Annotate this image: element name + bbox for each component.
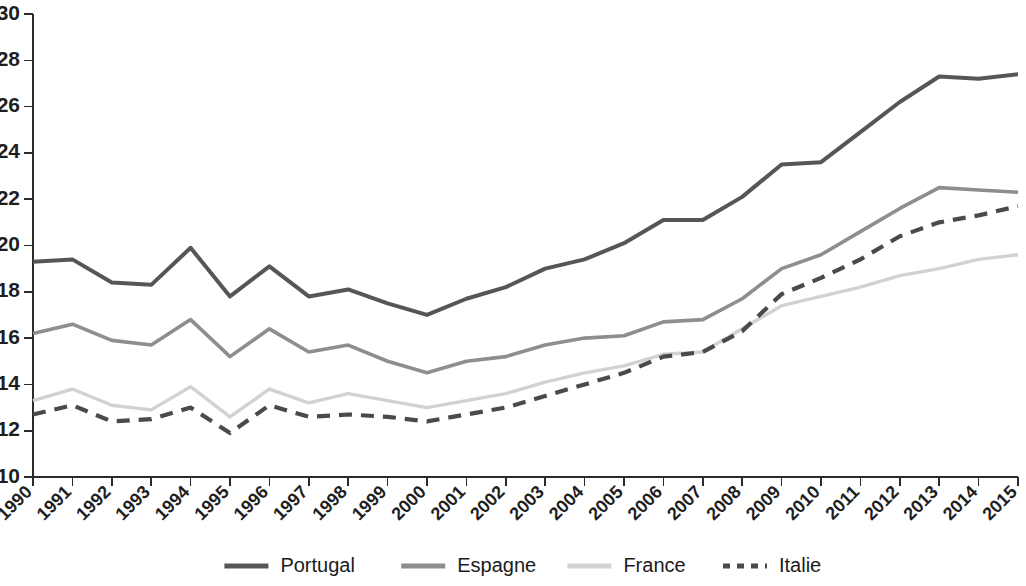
x-tick-label: 2002 — [466, 482, 508, 524]
x-tick-label: 2009 — [742, 482, 784, 524]
y-tick-label: 18 — [0, 278, 20, 301]
legend-item-italie: Italie — [723, 554, 821, 576]
chart-legend: PortugalEspagneFranceItalie — [224, 554, 821, 576]
x-tick-label: 2006 — [624, 482, 666, 524]
x-tick-label: 1991 — [33, 482, 75, 524]
x-tick-label: 2000 — [387, 482, 429, 524]
x-tick-label: 2001 — [427, 482, 469, 524]
x-axis: 1990199119921993199419951996199719981999… — [0, 477, 1021, 524]
series-group — [33, 74, 1018, 433]
legend-item-france: France — [567, 554, 685, 576]
x-tick-label: 2012 — [860, 482, 902, 524]
y-tick-label: 14 — [0, 371, 20, 394]
legend-item-espagne: Espagne — [401, 554, 536, 576]
x-tick-label: 2005 — [584, 482, 626, 524]
y-tick-label: 10 — [0, 464, 20, 487]
legend-item-portugal: Portugal — [224, 554, 355, 576]
x-tick-label: 1996 — [230, 482, 272, 524]
x-tick-label: 1994 — [151, 482, 193, 524]
x-tick-label: 2004 — [545, 482, 587, 524]
series-line-espagne — [33, 188, 1018, 373]
y-tick-label: 22 — [0, 186, 20, 209]
y-tick-label: 12 — [0, 417, 20, 440]
legend-label-france: France — [623, 554, 685, 576]
legend-label-espagne: Espagne — [457, 554, 536, 576]
x-tick-label: 1998 — [309, 482, 351, 524]
x-tick-label: 1992 — [72, 482, 114, 524]
x-tick-label: 1995 — [190, 482, 232, 524]
y-tick-label: 28 — [0, 47, 20, 70]
x-tick-label: 2003 — [506, 482, 548, 524]
line-chart: 1012141618202224262830 19901991199219931… — [0, 0, 1026, 586]
x-tick-label: 2014 — [939, 482, 981, 524]
legend-label-portugal: Portugal — [280, 554, 355, 576]
legend-label-italie: Italie — [779, 554, 821, 576]
y-tick-label: 30 — [0, 1, 20, 24]
series-line-portugal — [33, 74, 1018, 315]
y-tick-group: 1012141618202224262830 — [0, 1, 33, 487]
x-tick-label: 2013 — [900, 482, 942, 524]
y-axis: 1012141618202224262830 — [0, 1, 33, 487]
x-tick-label: 2010 — [781, 482, 823, 524]
x-tick-label: 2008 — [703, 482, 745, 524]
series-line-italie — [33, 206, 1018, 433]
x-tick-label: 1993 — [112, 482, 154, 524]
y-tick-label: 20 — [0, 232, 20, 255]
x-tick-label: 2015 — [978, 482, 1020, 524]
x-tick-label: 1999 — [348, 482, 390, 524]
chart-canvas: 1012141618202224262830 19901991199219931… — [0, 0, 1026, 586]
x-tick-group: 1990199119921993199419951996199719981999… — [0, 477, 1021, 524]
x-tick-label: 1997 — [269, 482, 311, 524]
x-tick-label: 2007 — [663, 482, 705, 524]
y-tick-label: 16 — [0, 325, 20, 348]
y-tick-label: 24 — [0, 139, 20, 162]
x-tick-label: 2011 — [821, 482, 863, 524]
x-tick-label: 1990 — [0, 482, 36, 524]
y-tick-label: 26 — [0, 93, 20, 116]
